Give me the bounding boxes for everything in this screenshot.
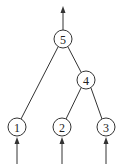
arrowhead-icon <box>104 137 109 144</box>
arrowhead-icon <box>61 6 66 13</box>
edge-4-3 <box>91 88 102 119</box>
edge-5-4 <box>68 47 81 72</box>
edge-4-2 <box>66 88 81 119</box>
node-label: 1 <box>14 121 20 135</box>
input-arrow-3 <box>104 137 109 164</box>
output-arrow <box>61 6 66 30</box>
node-4: 4 <box>77 71 95 89</box>
arrowhead-icon <box>15 137 20 144</box>
node-1: 1 <box>8 118 26 136</box>
edge-5-1 <box>21 47 58 119</box>
node-2: 2 <box>53 118 71 136</box>
input-arrow-2 <box>60 137 65 164</box>
node-label: 2 <box>59 121 65 135</box>
arrowhead-icon <box>60 137 65 144</box>
node-3: 3 <box>97 118 115 136</box>
node-label: 4 <box>83 74 89 88</box>
node-label: 3 <box>103 121 109 135</box>
input-arrow-1 <box>15 137 20 164</box>
node-label: 5 <box>60 33 66 47</box>
node-5: 5 <box>54 30 72 48</box>
tree-diagram: 5 4 1 2 3 <box>0 0 123 168</box>
